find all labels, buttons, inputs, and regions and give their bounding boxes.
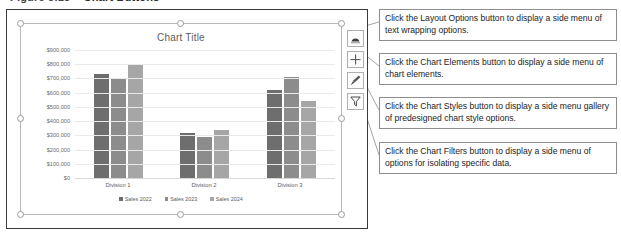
chart-side-buttons — [347, 30, 364, 110]
document-page-frame: Chart Title $900,000$800,000$700,000$600… — [6, 9, 368, 229]
resize-handle-top-right[interactable] — [338, 20, 345, 27]
gridline — [75, 121, 335, 122]
gridline — [75, 135, 335, 136]
chart-filters-button[interactable] — [347, 93, 364, 110]
y-axis-tick: $800,000 — [47, 61, 70, 67]
bar-group — [94, 50, 143, 178]
y-axis-tick: $300,000 — [47, 132, 70, 138]
gridline — [75, 178, 335, 179]
bar[interactable] — [214, 130, 229, 178]
legend-item[interactable]: Sales 2022 — [119, 196, 151, 202]
figure-screenshot: Figure 5.13 Chart Buttons Chart Title $9… — [0, 0, 621, 235]
callout-layout-options: Click the Layout Options button to displ… — [379, 9, 617, 41]
plot-canvas — [75, 50, 335, 178]
resize-handle-bottom-center[interactable] — [177, 211, 184, 218]
callout-text: Click the Layout Options button to displ… — [385, 13, 602, 35]
bar[interactable] — [94, 74, 109, 178]
resize-handle-middle-left[interactable] — [17, 115, 24, 122]
callout-text: Click the Chart Elements button to displ… — [385, 57, 603, 79]
y-axis-tick: $400,000 — [47, 118, 70, 124]
figure-number: Figure 5.13 — [10, 0, 70, 3]
y-axis-tick: $900,000 — [47, 47, 70, 53]
legend-item[interactable]: Sales 2024 — [210, 196, 242, 202]
resize-handle-bottom-left[interactable] — [17, 211, 24, 218]
gridline — [75, 150, 335, 151]
x-axis: Division 1Division 2Division 3 — [75, 182, 333, 188]
chart-plot-area: $900,000$800,000$700,000$600,000$500,000… — [29, 50, 335, 178]
resize-handle-bottom-right[interactable] — [338, 211, 345, 218]
chart-object[interactable]: Chart Title $900,000$800,000$700,000$600… — [20, 23, 342, 215]
callout-text: Click the Chart Styles button to display… — [385, 101, 609, 123]
figure-caption-text: Chart Buttons — [84, 0, 160, 3]
legend-swatch — [210, 197, 214, 201]
figure-caption: Figure 5.13 Chart Buttons — [10, 0, 159, 3]
gridline — [75, 50, 335, 51]
legend-swatch — [165, 197, 169, 201]
legend-item[interactable]: Sales 2023 — [165, 196, 197, 202]
gridline — [75, 64, 335, 65]
bar-group — [180, 50, 229, 178]
resize-handle-top-center[interactable] — [177, 20, 184, 27]
bar[interactable] — [197, 137, 212, 178]
y-axis-tick: $600,000 — [47, 90, 70, 96]
chart-legend[interactable]: Sales 2022Sales 2023Sales 2024 — [21, 196, 341, 202]
gridline — [75, 164, 335, 165]
legend-swatch — [119, 197, 123, 201]
callout-chart-styles: Click the Chart Styles button to display… — [379, 97, 617, 129]
chart-styles-button[interactable] — [347, 72, 364, 89]
chart-elements-button[interactable] — [347, 51, 364, 68]
resize-handle-top-left[interactable] — [17, 20, 24, 27]
legend-label: Sales 2022 — [125, 196, 152, 202]
callout-chart-elements: Click the Chart Elements button to displ… — [379, 53, 617, 85]
bar[interactable] — [267, 90, 282, 178]
gridline — [75, 93, 335, 94]
callout-text: Click the Chart Filters button to displa… — [385, 146, 591, 168]
x-axis-label: Division 2 — [191, 182, 216, 188]
y-axis-tick: $200,000 — [47, 147, 70, 153]
layout-options-button[interactable] — [347, 30, 364, 47]
gridline — [75, 78, 335, 79]
bar-group — [267, 50, 316, 178]
x-axis-label: Division 1 — [105, 182, 130, 188]
y-axis-tick: $100,000 — [47, 161, 70, 167]
y-axis: $900,000$800,000$700,000$600,000$500,000… — [29, 50, 73, 178]
chart-title[interactable]: Chart Title — [21, 32, 341, 43]
callout-chart-filters: Click the Chart Filters button to displa… — [379, 142, 617, 174]
bar[interactable] — [180, 133, 195, 179]
resize-handle-middle-right[interactable] — [338, 115, 345, 122]
bar-groups — [75, 50, 335, 178]
legend-label: Sales 2024 — [216, 196, 243, 202]
y-axis-tick: $700,000 — [47, 75, 70, 81]
y-axis-tick: $500,000 — [47, 104, 70, 110]
bar[interactable] — [301, 101, 316, 178]
legend-label: Sales 2023 — [170, 196, 197, 202]
x-axis-label: Division 3 — [277, 182, 302, 188]
y-axis-tick: $0 — [64, 175, 70, 181]
gridline — [75, 107, 335, 108]
